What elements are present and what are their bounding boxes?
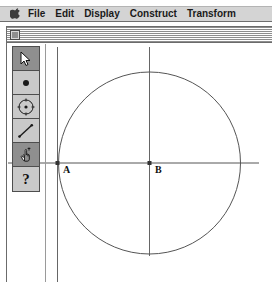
line-segment-icon	[17, 122, 35, 140]
apple-logo-icon[interactable]	[8, 8, 22, 20]
svg-text:?: ?	[22, 171, 30, 187]
menu-item-transform[interactable]: Transform	[182, 9, 241, 19]
screen: File Edit Display Construct Transform	[0, 0, 272, 282]
point-label-a[interactable]: A	[63, 165, 70, 175]
point-label-b[interactable]: B	[155, 165, 162, 175]
point-icon	[19, 76, 33, 90]
palette-divider	[45, 44, 46, 282]
point-a-marker[interactable]	[56, 161, 60, 165]
close-icon[interactable]	[10, 30, 20, 40]
straightedge-line-tool[interactable]	[13, 119, 39, 143]
circle-compass-icon	[17, 98, 35, 116]
sketch-window: A B	[6, 26, 272, 282]
text-label-tool[interactable]	[13, 143, 39, 167]
point-tool[interactable]	[13, 71, 39, 95]
tool-palette: ?	[12, 46, 40, 192]
arrow-cursor-icon	[19, 51, 33, 67]
menu-item-file[interactable]: File	[23, 9, 50, 19]
selection-arrow-tool[interactable]	[13, 47, 39, 71]
menu-item-display[interactable]: Display	[79, 9, 125, 19]
geometry-drawing	[8, 44, 272, 282]
sketch-canvas[interactable]: A B	[8, 44, 272, 282]
menu-item-construct[interactable]: Construct	[125, 9, 182, 19]
labeling-hand-icon	[18, 147, 34, 163]
question-mark-icon: ?	[19, 171, 33, 187]
menu-item-edit[interactable]: Edit	[50, 9, 79, 19]
point-b-marker[interactable]	[148, 161, 152, 165]
compass-circle-tool[interactable]	[13, 95, 39, 119]
menu-bar: File Edit Display Construct Transform	[0, 6, 272, 22]
window-title-bar[interactable]	[7, 27, 272, 43]
info-help-tool[interactable]: ?	[13, 167, 39, 191]
